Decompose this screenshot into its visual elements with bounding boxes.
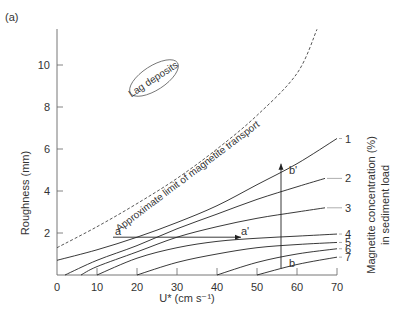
roughness-chart: (a) 010203040506070 246810 1234567 aa'bb… <box>0 0 407 323</box>
x-tick-label: 60 <box>291 281 303 293</box>
curve-labels: 1234567 <box>327 133 351 264</box>
y-ticks: 246810 <box>38 59 63 239</box>
right-label-2: in sediment load <box>379 165 391 245</box>
arrowhead-icon <box>279 164 284 170</box>
x-tick-label: 70 <box>331 281 343 293</box>
x-axis-label: U* (cm s⁻¹) <box>159 292 215 304</box>
curve-1 <box>57 139 337 261</box>
y-axis-label: Roughness (mm) <box>19 151 31 235</box>
x-ticks: 010203040506070 <box>54 268 343 293</box>
curve-5 <box>137 242 337 275</box>
curve-6 <box>217 249 337 275</box>
curve-2 <box>65 178 325 275</box>
curve-label-1: 1 <box>345 133 351 145</box>
y-tick-label: 4 <box>44 185 50 197</box>
panel-label: (a) <box>5 11 18 23</box>
point-label: a' <box>241 225 249 237</box>
concentration-curves <box>57 139 337 276</box>
point-label: b <box>289 257 295 269</box>
lag-deposits-label: Lag deposits <box>124 53 184 104</box>
point-label: b' <box>289 164 297 176</box>
y-tick-label: 2 <box>44 227 50 239</box>
x-tick-label: 50 <box>251 281 263 293</box>
y-tick-label: 8 <box>44 101 50 113</box>
x-tick-label: 0 <box>54 281 60 293</box>
curve-label-2: 2 <box>345 172 351 184</box>
axes <box>57 29 337 275</box>
curve-label-3: 3 <box>345 202 351 214</box>
y-tick-label: 6 <box>44 143 50 155</box>
curve-label-7: 7 <box>345 251 351 263</box>
y-tick-label: 10 <box>38 59 50 71</box>
limit-label: Approximate limit of magnetite transport <box>114 118 262 233</box>
x-tick-label: 10 <box>91 281 103 293</box>
x-tick-label: 20 <box>131 281 143 293</box>
right-label-1: Magnetite concentration (%) <box>365 136 377 274</box>
